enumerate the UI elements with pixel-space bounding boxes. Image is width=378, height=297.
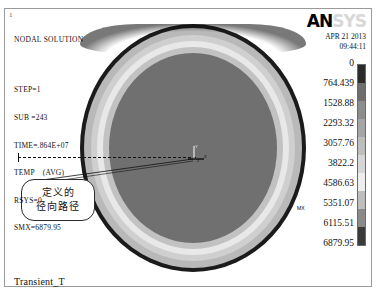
- logo-text-sys: SYS: [332, 11, 366, 31]
- ansys-branding: ANSYS APR 21 2013 09:44:11: [307, 11, 366, 51]
- legend-value: 0: [349, 58, 354, 68]
- info-line-time: TIME=.864E+07: [14, 141, 84, 150]
- ansys-logo: ANSYS: [307, 11, 366, 31]
- timestamp-time: 09:44:11: [307, 42, 366, 51]
- contour-colorbar: [357, 64, 366, 246]
- legend-value: 3822.2: [328, 158, 354, 168]
- legend-value: 3057.76: [323, 138, 354, 148]
- coordinate-triad-icon: Y X Z: [186, 143, 208, 163]
- legend-value: 5351.07: [323, 198, 354, 208]
- legend-value: 4586.63: [323, 178, 354, 188]
- info-title: NODAL SOLUTION: [14, 35, 84, 44]
- info-line-sub: SUB =243: [14, 113, 84, 122]
- colorbar-segment: [358, 101, 365, 119]
- colorbar-segment: [358, 119, 365, 137]
- svg-text:Y: Y: [195, 144, 198, 149]
- legend-value: 1528.88: [323, 98, 354, 108]
- nodal-solution-info: NODAL SOLUTION STEP=1 SUB =243 TIME=.864…: [14, 17, 84, 251]
- colorbar-segment: [358, 227, 365, 245]
- info-line-temp: TEMP (AVG): [14, 168, 84, 177]
- info-line-smx: SMX=6879.95: [14, 223, 84, 232]
- colorbar-segment: [358, 83, 365, 101]
- legend-value: 6115.51: [323, 218, 354, 228]
- legend-value: 2293.32: [323, 118, 354, 128]
- legend-value: 6879.95: [323, 238, 354, 248]
- analysis-title: Transient_T: [14, 276, 65, 287]
- info-line-rsys: RSYS=0: [14, 196, 84, 205]
- colorbar-segment: [358, 191, 365, 209]
- logo-text-an: AN: [307, 11, 332, 31]
- colorbar-segment: [358, 173, 365, 191]
- info-line-step: STEP=1: [14, 85, 84, 94]
- colorbar-segment: [358, 65, 365, 83]
- colorbar-segment: [358, 155, 365, 173]
- timestamp-date: APR 21 2013: [307, 32, 366, 41]
- view-window-number: 1: [9, 11, 13, 19]
- contour-legend-labels: 0764.4391528.882293.323057.763822.24586.…: [286, 64, 354, 246]
- colorbar-segment: [358, 209, 365, 227]
- legend-value: 764.439: [323, 78, 354, 88]
- svg-text:X: X: [204, 154, 207, 159]
- ansys-contour-screenshot: Y X Z MX 定义的 径向路径 1 NODAL SOLUTION STEP=…: [0, 0, 378, 297]
- colorbar-segment: [358, 137, 365, 155]
